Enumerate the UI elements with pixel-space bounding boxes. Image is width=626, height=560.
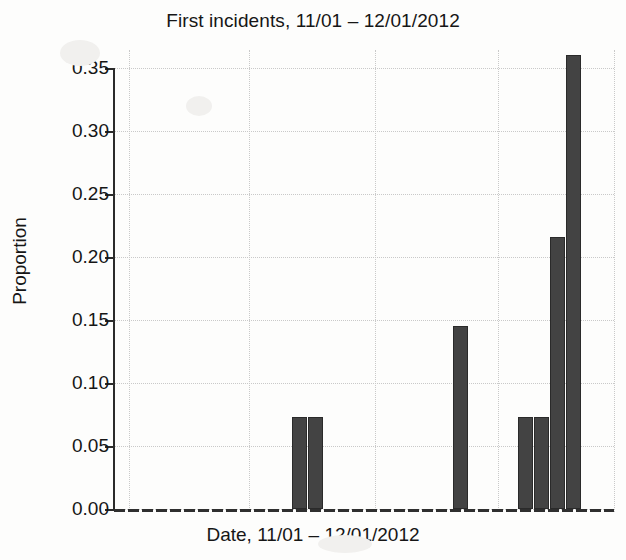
bar (308, 417, 323, 509)
gridline-horizontal (114, 320, 614, 321)
bar (566, 55, 581, 509)
plot-area: 0.000.050.100.150.200.250.300.35 (114, 50, 614, 512)
gridline-horizontal (114, 131, 614, 132)
gridline-vertical (614, 50, 615, 512)
gridline-horizontal (114, 383, 614, 384)
y-tick-label: 0.05 (39, 435, 109, 457)
gridline-vertical (249, 50, 250, 512)
plot-inner: 0.000.050.100.150.200.250.300.35 (114, 50, 614, 512)
y-tick-label: 0.20 (39, 246, 109, 268)
y-axis-label: Proportion (9, 181, 31, 341)
chart-title: First incidents, 11/01 – 12/01/2012 (0, 10, 626, 32)
gridline-vertical (129, 50, 130, 512)
bar (550, 237, 565, 509)
gridline-horizontal (114, 68, 614, 69)
x-axis-label: Date, 11/01 – 12/01/2012 (0, 524, 626, 546)
y-tick-label: 0.00 (39, 498, 109, 520)
chart-figure: First incidents, 11/01 – 12/01/2012 Prop… (0, 0, 626, 560)
gridline-horizontal (114, 194, 614, 195)
gridline-horizontal (114, 257, 614, 258)
y-tick-label: 0.30 (39, 120, 109, 142)
bar (534, 417, 549, 509)
y-tick-label: 0.25 (39, 183, 109, 205)
gridline-vertical (498, 50, 499, 512)
bar (453, 326, 468, 509)
bar (292, 417, 307, 509)
bar (518, 417, 533, 509)
y-tick-label: 0.35 (39, 57, 109, 79)
y-tick-label: 0.15 (39, 309, 109, 331)
x-axis-baseline (114, 509, 614, 512)
y-axis-line (113, 68, 115, 509)
gridline-vertical (375, 50, 376, 512)
y-tick-label: 0.10 (39, 372, 109, 394)
